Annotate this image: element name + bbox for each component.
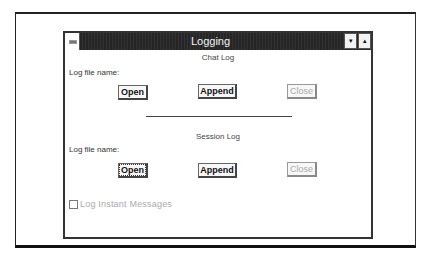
session-open-button[interactable]: Open — [118, 163, 148, 178]
chat-close-label: Close — [290, 86, 313, 96]
chat-log-file-label: Log file name: — [69, 68, 119, 77]
minimize-icon: ▾ — [349, 37, 353, 44]
log-instant-messages-label: Log Instant Messages — [80, 199, 172, 209]
section-divider — [146, 116, 292, 117]
session-log-file-label: Log file name: — [69, 145, 119, 154]
system-menu-icon — [69, 40, 77, 44]
log-instant-messages-checkbox[interactable] — [69, 200, 78, 209]
chat-append-button[interactable]: Append — [198, 84, 237, 99]
session-append-button[interactable]: Append — [198, 163, 237, 178]
log-instant-messages-option[interactable]: Log Instant Messages — [69, 199, 172, 209]
maximize-icon: ▴ — [363, 37, 367, 44]
maximize-button[interactable]: ▴ — [358, 33, 371, 49]
session-log-title: Session Log — [65, 132, 371, 141]
session-close-label: Close — [290, 164, 313, 174]
logging-window: Logging ▾ ▴ Chat Log Log file name: Open… — [63, 31, 373, 239]
chat-log-title: Chat Log — [65, 53, 371, 62]
title-bar[interactable]: Logging ▾ ▴ — [65, 33, 371, 50]
chat-append-label: Append — [200, 86, 234, 96]
session-open-label: Open — [120, 165, 145, 175]
chat-open-button[interactable]: Open — [118, 85, 148, 100]
session-append-label: Append — [200, 165, 234, 175]
chat-open-label: Open — [121, 87, 144, 97]
window-title: Logging — [80, 34, 341, 49]
chat-close-button[interactable]: Close — [287, 84, 317, 99]
system-menu-button[interactable] — [65, 33, 80, 50]
minimize-button[interactable]: ▾ — [344, 33, 357, 49]
session-close-button[interactable]: Close — [287, 162, 317, 177]
